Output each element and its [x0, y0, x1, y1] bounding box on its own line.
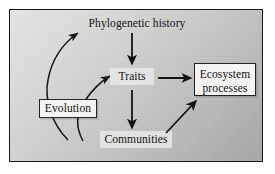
node-communities-label: Communities [104, 133, 167, 145]
node-communities: Communities [100, 131, 172, 148]
node-evolution-label: Evolution [45, 102, 91, 114]
node-traits: Traits [110, 68, 154, 85]
node-phylogenetic-history-label: Phylogenetic history [89, 17, 186, 29]
diagram-root: Phylogenetic history Traits Communities … [0, 0, 275, 174]
node-ecosystem-processes-label-line1: Ecosystem [195, 67, 255, 81]
node-traits-label: Traits [118, 70, 145, 82]
node-evolution: Evolution [39, 99, 97, 118]
node-ecosystem-processes: Ecosystem processes [194, 63, 256, 96]
node-phylogenetic-history: Phylogenetic history [76, 15, 198, 31]
node-ecosystem-processes-label-line2: processes [195, 81, 255, 95]
